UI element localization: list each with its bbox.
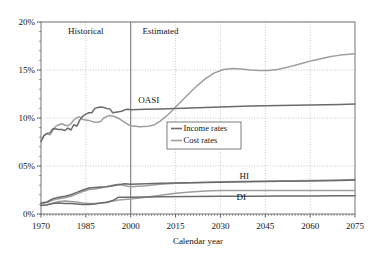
y-axis-tick-label: 20% [19,17,36,27]
annotation-historical: Historical [68,26,104,36]
y-axis-tick-label: 05% [19,161,36,171]
x-axis-tick-label: 2030 [211,221,230,231]
annotation-di: DI [237,192,247,202]
series-line-di-cost [41,190,355,205]
x-axis-tick-label: 1970 [32,221,51,231]
x-axis-tick-label: 1985 [77,221,96,231]
annotation-estimated: Estimated [143,26,179,36]
social-security-rates-chart: 0%05%10%15%20%19701985200020152030204520… [0,0,372,265]
annotation-oasi: OASI [138,95,159,105]
x-axis-tick-label: 2000 [122,221,141,231]
legend-label-0: Income rates [184,123,228,133]
series-line-di-income [41,196,355,206]
x-axis-title: Calendar year [173,236,223,246]
x-axis-tick-label: 2075 [346,221,365,231]
y-axis-tick-label: 0% [23,209,36,219]
legend-label-1: Cost rates [184,135,218,145]
x-axis-tick-label: 2060 [301,221,320,231]
y-axis-tick-label: 15% [19,65,36,75]
x-axis-tick-label: 2045 [256,221,275,231]
annotation-hi: HI [240,171,250,181]
chart-container: 0%05%10%15%20%19701985200020152030204520… [0,0,372,265]
y-axis-tick-label: 10% [19,113,36,123]
x-axis-tick-label: 2015 [167,221,186,231]
